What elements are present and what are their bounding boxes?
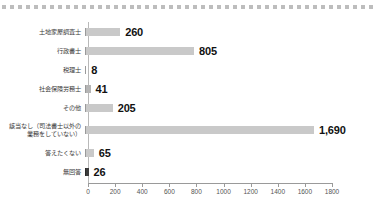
x-axis-tick-label: 400 <box>137 188 148 195</box>
category-label: 税理士 <box>0 66 85 74</box>
rule-dot <box>257 5 261 9</box>
rule-dot <box>369 5 373 9</box>
rule-dot <box>90 5 94 9</box>
bar-7[interactable] <box>85 168 89 176</box>
bar-area: 41 <box>85 79 375 98</box>
rule-dot <box>161 5 165 9</box>
table-row: 無回答 26 <box>0 162 375 181</box>
rule-dot <box>233 5 237 9</box>
rule-dot <box>185 5 189 9</box>
rule-dot <box>58 5 62 9</box>
rule-dot <box>329 5 333 9</box>
rule-dot <box>361 5 365 9</box>
table-row: 社会保険労務士 41 <box>0 79 375 98</box>
x-axis-tick-label: 0 <box>86 188 90 195</box>
table-row: 税理士 8 <box>0 60 375 79</box>
bar-3[interactable] <box>85 85 91 93</box>
bar-rows-container: 土地家屋調査士 260 行政書士 805 税理士 8 社会保険労務士 <box>0 22 375 181</box>
rule-dot <box>34 5 38 9</box>
rule-dot <box>177 5 181 9</box>
rule-dot <box>249 5 253 9</box>
rule-dot <box>10 5 14 9</box>
rule-dot <box>26 5 30 9</box>
rule-dot <box>345 5 349 9</box>
rule-dot <box>313 5 317 9</box>
table-row: 答えたくない 65 <box>0 143 375 162</box>
bar-area: 1,690 <box>85 117 375 143</box>
horizontal-bar-chart: 土地家屋調査士 260 行政書士 805 税理士 8 社会保険労務士 <box>0 20 375 224</box>
x-axis: 020040060080010001200140016001800 <box>85 183 333 223</box>
rule-dot <box>18 5 22 9</box>
rule-dot <box>265 5 269 9</box>
category-label: 行政書士 <box>0 47 85 55</box>
bar-value-label: 41 <box>96 83 108 95</box>
bar-value-label: 8 <box>91 64 97 76</box>
rule-dot <box>145 5 149 9</box>
x-axis-tick-label: 1200 <box>243 188 257 195</box>
rule-dot <box>137 5 141 9</box>
rule-dot <box>122 5 126 9</box>
x-axis-ticks <box>88 183 332 187</box>
x-axis-tick <box>142 183 143 187</box>
rule-dot <box>42 5 46 9</box>
rule-dot <box>82 5 86 9</box>
x-axis-tick <box>169 183 170 187</box>
x-axis-tick <box>251 183 252 187</box>
category-label: 無回答 <box>0 168 85 176</box>
bar-1[interactable] <box>85 47 194 55</box>
bar-5[interactable] <box>85 126 314 134</box>
rule-dot <box>74 5 78 9</box>
bar-value-label: 805 <box>199 45 217 57</box>
category-label: 該当なし（司法書士以外の 業務をしていない） <box>0 122 85 137</box>
x-axis-tick-label: 1600 <box>298 188 312 195</box>
decorative-dotted-rule <box>0 4 375 10</box>
x-axis-tick <box>88 183 89 187</box>
rule-dot <box>281 5 285 9</box>
rule-dot <box>66 5 70 9</box>
rule-dot <box>98 5 102 9</box>
table-row: その他 205 <box>0 98 375 117</box>
table-row: 土地家屋調査士 260 <box>0 22 375 41</box>
rule-dot <box>50 5 54 9</box>
rule-dot <box>337 5 341 9</box>
category-label: 答えたくない <box>0 149 85 157</box>
bar-area: 65 <box>85 143 375 162</box>
category-label: 社会保険労務士 <box>0 85 85 93</box>
rule-dot <box>353 5 357 9</box>
rule-dot <box>321 5 325 9</box>
rule-dot <box>273 5 277 9</box>
x-axis-tick-label: 1400 <box>271 188 285 195</box>
rule-dot <box>193 5 197 9</box>
x-axis-tick <box>305 183 306 187</box>
rule-dot <box>130 5 134 9</box>
bar-value-label: 26 <box>94 166 106 178</box>
bar-area: 260 <box>85 22 375 41</box>
bar-0[interactable] <box>85 28 120 36</box>
x-axis-tick-label: 600 <box>164 188 175 195</box>
x-axis-tick <box>224 183 225 187</box>
x-axis-tick-labels: 020040060080010001200140016001800 <box>88 188 332 200</box>
rule-dot <box>305 5 309 9</box>
bar-6[interactable] <box>85 149 94 157</box>
category-label: 土地家屋調査士 <box>0 28 85 36</box>
bar-2[interactable] <box>85 66 86 74</box>
rule-dot <box>2 5 6 9</box>
rule-dot <box>225 5 229 9</box>
bar-area: 26 <box>85 162 375 181</box>
category-label: その他 <box>0 104 85 112</box>
rule-dot <box>289 5 293 9</box>
bar-4[interactable] <box>85 104 113 112</box>
bar-area: 205 <box>85 98 375 117</box>
bar-area: 805 <box>85 41 375 60</box>
x-axis-tick-label: 800 <box>191 188 202 195</box>
bar-value-label: 65 <box>99 147 111 159</box>
rule-dot <box>201 5 205 9</box>
x-axis-tick-label: 1800 <box>325 188 339 195</box>
bar-value-label: 1,690 <box>319 124 346 136</box>
x-axis-tick-label: 200 <box>110 188 121 195</box>
x-axis-tick <box>332 183 333 187</box>
x-axis-tick <box>278 183 279 187</box>
rule-dot <box>153 5 157 9</box>
rule-dot <box>217 5 221 9</box>
bar-value-label: 205 <box>118 102 136 114</box>
